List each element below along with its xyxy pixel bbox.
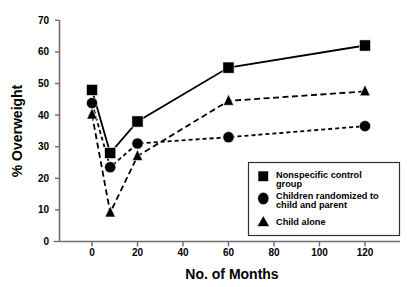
square-marker xyxy=(359,40,370,51)
y-axis-ticks: 0 10 20 30 40 50 xyxy=(38,15,60,247)
circle-icon xyxy=(258,192,269,204)
circle-marker xyxy=(105,162,116,173)
x-axis-ticks: 0 20 40 60 80 100 xyxy=(89,242,374,259)
y-tick-70: 70 xyxy=(38,15,60,26)
x-tick-label: 100 xyxy=(311,247,328,258)
square-marker xyxy=(223,62,234,73)
legend-label-line1: Child alone xyxy=(276,217,326,227)
y-tick-30: 30 xyxy=(38,141,60,152)
square-marker xyxy=(105,148,116,159)
square-marker xyxy=(132,116,143,127)
circle-marker xyxy=(86,98,97,109)
y-tick-label: 10 xyxy=(38,204,50,215)
y-tick-10: 10 xyxy=(38,204,60,215)
series-markers-children-randomized xyxy=(86,98,370,173)
legend-label-line2: group xyxy=(276,179,302,189)
x-tick-120: 120 xyxy=(357,242,374,259)
y-tick-label: 40 xyxy=(38,110,50,121)
triangle-marker xyxy=(360,85,370,96)
square-icon xyxy=(258,171,269,182)
triangle-marker xyxy=(105,206,115,217)
x-axis-title: No. of Months xyxy=(185,266,279,282)
x-tick-label: 60 xyxy=(223,247,235,258)
y-tick-20: 20 xyxy=(38,173,60,184)
y-tick-label: 70 xyxy=(38,15,50,26)
triangle-marker xyxy=(223,94,233,105)
x-tick-0: 0 xyxy=(89,242,95,259)
chart-figure: 0 10 20 30 40 50 xyxy=(0,0,407,287)
chart-legend: Nonspecific control group Children rando… xyxy=(249,163,400,236)
x-tick-label: 120 xyxy=(357,247,374,258)
x-tick-label: 0 xyxy=(89,247,95,258)
y-tick-60: 60 xyxy=(38,46,60,57)
legend-label-line2: child and parent xyxy=(276,200,347,210)
y-tick-label: 30 xyxy=(38,141,50,152)
x-tick-80: 80 xyxy=(268,242,280,259)
y-tick-50: 50 xyxy=(38,78,60,89)
y-tick-40: 40 xyxy=(38,110,60,121)
square-marker xyxy=(86,84,97,95)
x-tick-40: 40 xyxy=(177,242,189,259)
x-tick-label: 20 xyxy=(132,247,144,258)
y-axis-title: % Overweight xyxy=(9,84,25,177)
y-tick-label: 50 xyxy=(38,78,50,89)
x-tick-100: 100 xyxy=(311,242,328,259)
circle-marker xyxy=(359,121,370,132)
x-tick-20: 20 xyxy=(132,242,144,259)
circle-marker xyxy=(223,132,234,143)
circle-marker xyxy=(132,138,143,149)
line-chart: 0 10 20 30 40 50 xyxy=(0,0,407,287)
x-tick-label: 80 xyxy=(268,247,280,258)
x-tick-60: 60 xyxy=(223,242,235,259)
y-tick-0: 0 xyxy=(43,236,59,247)
y-tick-label: 20 xyxy=(38,173,50,184)
y-tick-label: 60 xyxy=(38,46,50,57)
y-tick-label: 0 xyxy=(43,236,49,247)
triangle-marker xyxy=(132,150,142,161)
x-tick-label: 40 xyxy=(177,247,189,258)
